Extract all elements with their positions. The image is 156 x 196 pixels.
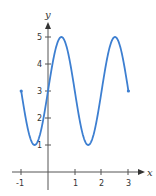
x-tick-label: 3 xyxy=(126,179,131,188)
y-tick-label: 5 xyxy=(37,33,42,42)
x-tick-label: -1 xyxy=(16,179,24,188)
endpoint-dot xyxy=(127,89,130,92)
y-axis-arrow-icon xyxy=(45,22,51,29)
y-ticks: 1 2 3 4 5 xyxy=(37,33,51,150)
axes: x y xyxy=(12,9,153,190)
x-tick-label: 2 xyxy=(99,179,104,188)
x-axis-label: x xyxy=(147,167,153,178)
y-tick-label: 3 xyxy=(37,87,42,96)
endpoint-dot xyxy=(20,89,23,92)
chart: x y -1 1 2 3 1 2 3 4 5 xyxy=(0,0,156,196)
y-tick-label: 4 xyxy=(37,60,42,69)
y-axis-label: y xyxy=(44,9,51,20)
y-tick-label: 2 xyxy=(37,114,42,123)
x-tick-label: 1 xyxy=(73,179,78,188)
x-axis-arrow-icon xyxy=(138,169,145,175)
